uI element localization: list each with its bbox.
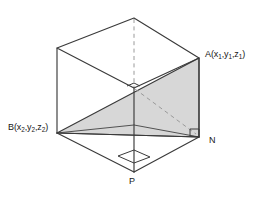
vertex-label-n: N (209, 136, 215, 145)
front-left-bottom-edge (57, 133, 134, 172)
figure-canvas (0, 0, 257, 201)
vertex-label-p: P (129, 177, 135, 186)
vertex-label-a: A(x1,y1,z1) (205, 50, 245, 59)
right-angle-inner-vertex (127, 83, 140, 86)
geometry-figure: A(x1,y1,z1) B(x2,y2,z2) N P (0, 0, 257, 201)
vertex-label-b: B(x2,y2,z2) (8, 123, 48, 132)
